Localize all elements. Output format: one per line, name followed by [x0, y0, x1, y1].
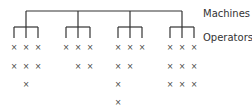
- operator-mark: ×: [34, 44, 42, 52]
- operator-mark: ×: [10, 44, 18, 52]
- operator-mark: ×: [126, 63, 134, 71]
- operator-mark: ×: [178, 81, 186, 89]
- machines-label: Machines: [203, 8, 250, 20]
- operator-mark: ×: [62, 44, 70, 52]
- operator-mark: ×: [34, 63, 42, 71]
- operator-mark: ×: [190, 81, 198, 89]
- operator-mark: ×: [74, 44, 82, 52]
- operators-label: Operators: [203, 32, 252, 44]
- operator-mark: ×: [22, 44, 30, 52]
- operator-mark: ×: [114, 99, 122, 107]
- operator-mark: ×: [166, 44, 174, 52]
- operator-mark: ×: [190, 44, 198, 52]
- operator-mark: ×: [114, 63, 122, 71]
- operator-mark: ×: [166, 63, 174, 71]
- operator-mark: ×: [190, 63, 198, 71]
- operator-mark: ×: [22, 63, 30, 71]
- operator-mark: ×: [114, 81, 122, 89]
- operator-mark: ×: [178, 44, 186, 52]
- operator-mark: ×: [86, 63, 94, 71]
- operator-mark: ×: [166, 81, 174, 89]
- operator-mark: ×: [10, 63, 18, 71]
- operator-mark: ×: [114, 44, 122, 52]
- operator-mark: ×: [74, 63, 82, 71]
- operator-mark: ×: [138, 44, 146, 52]
- operator-mark: ×: [22, 81, 30, 89]
- operator-mark: ×: [86, 44, 94, 52]
- operator-mark: ×: [178, 63, 186, 71]
- operator-mark: ×: [126, 44, 134, 52]
